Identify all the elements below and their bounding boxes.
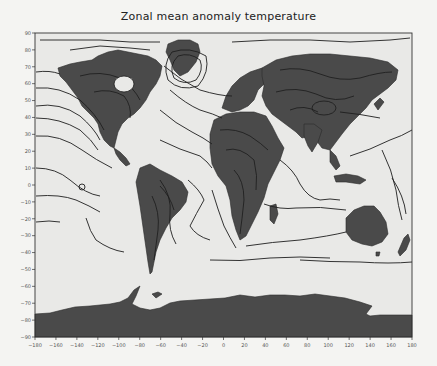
x-tick-label: 140 bbox=[365, 342, 375, 348]
y-tick-label: 40 bbox=[25, 114, 31, 120]
x-tick-label: 0 bbox=[222, 342, 225, 348]
y-tick-label: −20 bbox=[20, 216, 31, 222]
y-tick-label: 70 bbox=[25, 64, 31, 70]
y-tick-label: −10 bbox=[20, 199, 31, 205]
y-tick-label: 20 bbox=[25, 148, 31, 154]
y-tick-label: −30 bbox=[20, 232, 31, 238]
x-tick-label: 20 bbox=[241, 342, 247, 348]
y-tick-label: −50 bbox=[20, 266, 31, 272]
x-tick-label: −180 bbox=[28, 342, 42, 348]
x-tick-label: −160 bbox=[49, 342, 63, 348]
y-tick-label: 30 bbox=[25, 131, 31, 137]
y-tick-label: −70 bbox=[20, 300, 31, 306]
x-tick-label: 160 bbox=[386, 342, 396, 348]
x-tick-label: −80 bbox=[134, 342, 145, 348]
y-tick-label: 60 bbox=[25, 80, 31, 86]
y-tick-label: 80 bbox=[25, 47, 31, 53]
x-tick-label: −40 bbox=[176, 342, 187, 348]
anomaly-map: −180−160−140−120−100−80−60−40−2002040608… bbox=[0, 0, 437, 366]
x-tick-label: 80 bbox=[304, 342, 310, 348]
y-tick-label: −60 bbox=[20, 283, 31, 289]
y-tick-label: 90 bbox=[25, 30, 31, 36]
x-tick-label: 60 bbox=[283, 342, 289, 348]
x-tick-label: 120 bbox=[344, 342, 354, 348]
x-tick-label: 100 bbox=[323, 342, 333, 348]
x-tick-label: 40 bbox=[262, 342, 268, 348]
x-tick-label: −20 bbox=[197, 342, 208, 348]
x-tick-label: −120 bbox=[91, 342, 105, 348]
y-tick-label: −90 bbox=[20, 334, 31, 340]
tasmania bbox=[376, 252, 380, 256]
x-tick-label: 180 bbox=[407, 342, 417, 348]
x-tick-label: −140 bbox=[70, 342, 84, 348]
y-tick-label: −80 bbox=[20, 317, 31, 323]
y-tick-label: 0 bbox=[28, 182, 31, 188]
y-tick-label: −40 bbox=[20, 249, 31, 255]
x-tick-label: −100 bbox=[112, 342, 126, 348]
y-tick-label: 10 bbox=[25, 165, 31, 171]
x-tick-label: −60 bbox=[155, 342, 166, 348]
y-tick-label: 50 bbox=[25, 97, 31, 103]
